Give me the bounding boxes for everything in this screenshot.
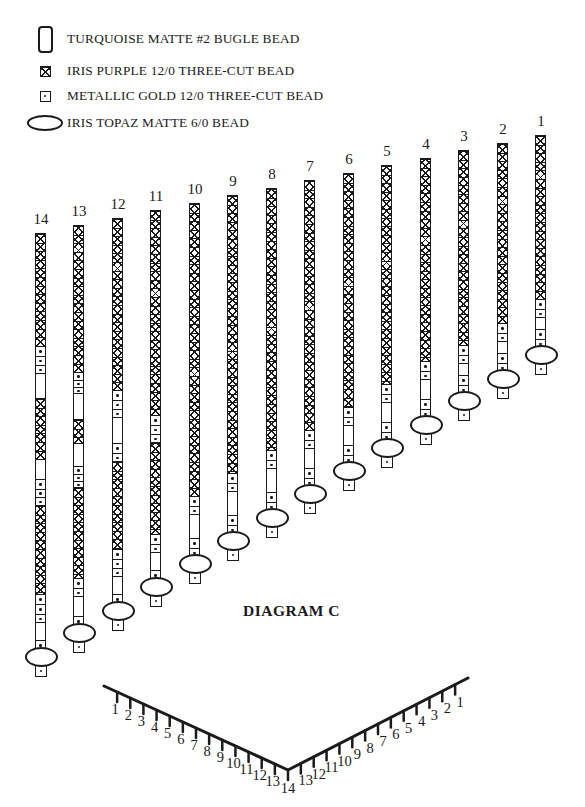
ruler-tick-label: 7 [379, 733, 386, 749]
ruler-tick-label: 8 [204, 743, 211, 759]
ruler-tick-label: 1 [457, 694, 464, 710]
ruler-tick-label: 3 [431, 707, 438, 723]
ruler-tick-label: 10 [226, 755, 241, 771]
topaz-bead [140, 577, 173, 597]
ruler-tick-label: 2 [125, 707, 132, 723]
topaz-bead [294, 484, 327, 504]
topaz-bead [448, 391, 481, 411]
topaz-bead [525, 345, 558, 365]
ruler-tick-label: 8 [367, 740, 374, 756]
ruler-tick-label: 10 [337, 753, 352, 769]
ruler-tick-label: 6 [177, 731, 184, 747]
strand-count-ruler: 123456789101112131413121110987654321 [0, 0, 585, 807]
ruler-tick-label: 9 [354, 746, 361, 762]
beading-diagram-page: TURQUOISE MATTE #2 BUGLE BEAD IRIS PURPL… [0, 0, 585, 807]
topaz-bead [333, 461, 366, 481]
topaz-bead [63, 623, 96, 643]
ruler-tick-label: 4 [418, 713, 426, 729]
topaz-bead [25, 647, 58, 667]
ruler-tick-label: 14 [281, 780, 296, 796]
ruler-tick-label: 5 [405, 720, 412, 736]
topaz-bead [256, 508, 289, 528]
ruler-tick-label: 9 [217, 749, 224, 765]
topaz-bead [179, 554, 212, 574]
topaz-bead [410, 415, 443, 435]
topaz-bead [217, 531, 250, 551]
ruler-tick-label: 11 [240, 761, 254, 777]
ruler-tick-label: 7 [190, 737, 197, 753]
topaz-bead [102, 601, 135, 621]
ruler-tick-label: 2 [444, 700, 451, 716]
topaz-bead [371, 438, 404, 458]
ruler-tick-label: 6 [392, 726, 399, 742]
ruler-tick-label: 5 [164, 725, 171, 741]
ruler-tick-label: 4 [151, 719, 159, 735]
ruler-tick-label: 3 [138, 713, 145, 729]
ruler-tick-label: 1 [112, 701, 119, 717]
ruler-tick-label: 13 [266, 773, 281, 789]
topaz-bead [487, 369, 520, 389]
